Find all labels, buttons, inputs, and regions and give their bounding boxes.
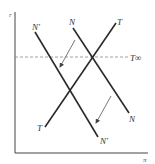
n-label-bottom: N <box>128 114 136 124</box>
shift-arrow-lower <box>96 96 111 123</box>
x-axis-label: π <box>143 156 147 164</box>
t-label-top: T <box>117 17 123 27</box>
diagram-canvas: r π T∞ N' N' N N T T <box>0 0 155 164</box>
y-axis-label: r <box>9 11 12 19</box>
n-line <box>73 28 129 113</box>
t-label-bottom: T <box>37 123 43 133</box>
n-prime-label-bottom: N' <box>99 136 109 146</box>
shift-arrow-upper <box>60 40 75 67</box>
n-prime-line <box>35 32 98 137</box>
n-prime-label-top: N' <box>31 22 41 32</box>
n-label-top: N <box>68 17 76 27</box>
t-infinity-label: T∞ <box>130 53 141 63</box>
